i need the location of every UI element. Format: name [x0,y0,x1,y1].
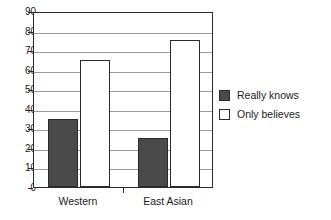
chart-legend: Really knowsOnly believes [219,86,300,124]
legend-label: Really knows [237,90,299,101]
bar-chart: 9080706050403020100 WesternEast Asian Re… [0,0,331,220]
legend-swatch [219,109,230,120]
legend-swatch [219,90,230,101]
y-axis-tick-mark [28,188,33,189]
bar [48,119,78,187]
x-axis-tick-mark [123,188,124,193]
x-axis-category-label: East Asian [143,196,193,207]
legend-item: Only believes [219,105,300,124]
bar [138,138,168,187]
legend-label: Only believes [237,109,300,120]
legend-item: Really knows [219,86,300,105]
gridline [34,33,212,34]
x-axis-category-label: Western [59,196,98,207]
bar [170,40,200,187]
bar [80,60,110,187]
plot-area [33,12,213,188]
